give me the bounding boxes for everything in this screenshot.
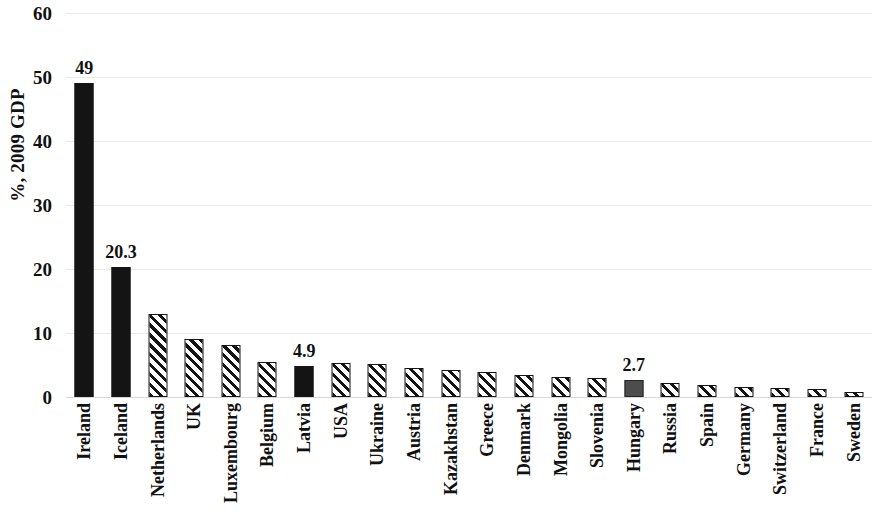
bars-layer: 4920.34.92.7 [66, 13, 872, 397]
x-axis-label-slot: USA [322, 403, 359, 519]
x-axis-label-slot: Belgium [249, 403, 286, 519]
bar-chart: %, 2009 GDP 4920.34.92.7 0102030405060 I… [0, 0, 878, 519]
bar-slot [249, 13, 286, 397]
x-axis-label-slot: Ireland [66, 403, 103, 519]
x-axis-category-label: Luxembourg [222, 403, 240, 503]
gridline [66, 397, 872, 398]
bar[interactable] [331, 363, 350, 397]
y-axis-tick-label: 60 [6, 4, 52, 23]
bar-slot [432, 13, 469, 397]
x-axis-category-label: Iceland [112, 403, 130, 460]
bar-slot [396, 13, 433, 397]
x-axis-label-slot: Greece [469, 403, 506, 519]
bar[interactable] [624, 380, 643, 397]
x-axis-label-slot: Slovenia [579, 403, 616, 519]
x-axis-category-label: Greece [478, 403, 496, 457]
bar-slot [139, 13, 176, 397]
x-axis-label-slot: Hungary [616, 403, 653, 519]
x-axis-category-label: Austria [405, 403, 423, 461]
bar[interactable] [514, 375, 533, 397]
x-axis-category-label: Belgium [258, 403, 276, 467]
x-axis-label-slot: Latvia [286, 403, 323, 519]
bar[interactable] [844, 392, 863, 397]
x-axis-label-slot: Luxembourg [213, 403, 250, 519]
y-axis-tick-label: 50 [6, 68, 52, 87]
bar[interactable] [185, 339, 204, 397]
x-axis-label-slot: France [799, 403, 836, 519]
x-axis-category-label: Hungary [625, 403, 643, 472]
bar[interactable] [75, 83, 94, 397]
y-axis-tick-label: 0 [6, 388, 52, 407]
bar-value-label: 4.9 [293, 342, 316, 360]
bar-value-label: 2.7 [623, 356, 646, 374]
bar[interactable] [661, 383, 680, 397]
x-axis-label-slot: Sweden [835, 403, 872, 519]
bar-slot [322, 13, 359, 397]
bar-slot: 20.3 [103, 13, 140, 397]
bar[interactable] [441, 370, 460, 397]
bar[interactable] [478, 372, 497, 397]
bar-slot: 49 [66, 13, 103, 397]
bar-value-label: 49 [75, 59, 93, 77]
bar[interactable] [148, 314, 167, 397]
x-axis-category-label: Spain [698, 403, 716, 447]
bar-slot [469, 13, 506, 397]
bar-slot [762, 13, 799, 397]
x-axis-label-slot: UK [176, 403, 213, 519]
y-axis-tick-label: 40 [6, 132, 52, 151]
x-axis-category-label: Netherlands [149, 403, 167, 497]
x-axis-label-slot: Netherlands [139, 403, 176, 519]
bar-slot [725, 13, 762, 397]
x-axis-label-slot: Kazakhstan [432, 403, 469, 519]
x-axis-category-label: Sweden [845, 403, 863, 462]
bar[interactable] [808, 389, 827, 397]
bar-slot [835, 13, 872, 397]
bar[interactable] [405, 368, 424, 397]
bar[interactable] [551, 377, 570, 397]
bar[interactable] [771, 388, 790, 397]
bar-slot [359, 13, 396, 397]
bar[interactable] [734, 387, 753, 397]
bar-slot [579, 13, 616, 397]
bar-slot [542, 13, 579, 397]
x-axis-category-label: France [808, 403, 826, 457]
bar-slot [799, 13, 836, 397]
plot-area: 4920.34.92.7 [66, 13, 872, 397]
x-axis-category-labels: IrelandIcelandNetherlandsUKLuxembourgBel… [66, 403, 872, 519]
bar[interactable] [295, 366, 314, 397]
bar[interactable] [111, 267, 130, 397]
x-axis-category-label: UK [185, 403, 203, 430]
x-axis-category-label: Germany [735, 403, 753, 476]
bar-value-label: 20.3 [105, 243, 137, 261]
bar-slot [506, 13, 543, 397]
x-axis-label-slot: Ukraine [359, 403, 396, 519]
x-axis-category-label: Mongolia [552, 403, 570, 476]
bar-slot [652, 13, 689, 397]
bar[interactable] [368, 364, 387, 397]
y-axis-tick-label: 30 [6, 196, 52, 215]
y-axis-tick-label: 10 [6, 324, 52, 343]
bar-slot [689, 13, 726, 397]
x-axis-label-slot: Spain [689, 403, 726, 519]
x-axis-label-slot: Denmark [506, 403, 543, 519]
x-axis-label-slot: Austria [396, 403, 433, 519]
x-axis-label-slot: Mongolia [542, 403, 579, 519]
x-axis-category-label: USA [332, 403, 350, 439]
y-axis-tick-label: 20 [6, 260, 52, 279]
bar-slot: 2.7 [616, 13, 653, 397]
x-axis-category-label: Switzerland [771, 403, 789, 495]
x-axis-label-slot: Switzerland [762, 403, 799, 519]
bar-slot [176, 13, 213, 397]
bar-slot [213, 13, 250, 397]
bar[interactable] [221, 345, 240, 397]
x-axis-category-label: Latvia [295, 403, 313, 453]
x-axis-category-label: Russia [661, 403, 679, 454]
bar-slot: 4.9 [286, 13, 323, 397]
bar[interactable] [258, 362, 277, 397]
x-axis-category-label: Denmark [515, 403, 533, 476]
bar[interactable] [588, 378, 607, 397]
x-axis-category-label: Ukraine [368, 403, 386, 466]
x-axis-category-label: Kazakhstan [442, 403, 460, 495]
bar[interactable] [698, 385, 717, 397]
x-axis-label-slot: Russia [652, 403, 689, 519]
